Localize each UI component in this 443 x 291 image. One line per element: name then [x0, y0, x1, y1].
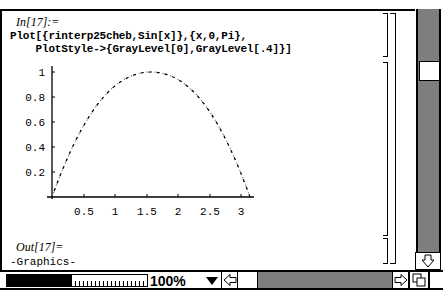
output-label: Out[17]=: [16, 240, 63, 255]
x-tick-0.5: 0.5: [74, 206, 94, 218]
scroll-right-button[interactable]: [392, 272, 409, 288]
output-cell-bracket[interactable]: [383, 238, 388, 264]
series-sin: [52, 72, 250, 197]
magnification-ruler[interactable]: [6, 274, 148, 287]
group-cell-bracket[interactable]: [390, 13, 396, 264]
input-code-line-1[interactable]: Plot[{rinterp25cheb,Sin[x]},{x,0,Pi},: [10, 30, 247, 42]
horizontal-scrollbar[interactable]: [258, 272, 392, 288]
x-tick-2: 2: [175, 206, 182, 218]
horizontal-scroll-thumb[interactable]: [240, 272, 258, 288]
zoom-level[interactable]: 100%: [150, 273, 186, 289]
input-cell-bracket[interactable]: [383, 13, 388, 57]
series-rinterp25cheb: [52, 72, 250, 197]
y-tick-0.4: 0.4: [25, 142, 45, 154]
plot-graphic: 1 0.8 0.6 0.4 0.2 0.5 1 1.5 2 2.5 3: [0, 60, 380, 235]
scroll-left-button[interactable]: [221, 272, 238, 288]
arrow-down-icon: [421, 254, 435, 268]
y-tick-1: 1: [38, 67, 45, 79]
input-code-line-2[interactable]: PlotStyle->{GrayLevel[0],GrayLevel[.4]}]: [10, 43, 292, 55]
x-tick-3: 3: [238, 206, 245, 218]
x-tick-1.5: 1.5: [137, 206, 157, 218]
vertical-scrollbar[interactable]: [416, 9, 441, 272]
input-label: In[17]:=: [16, 15, 59, 30]
x-tick-2.5: 2.5: [200, 206, 220, 218]
y-tick-0.2: 0.2: [25, 167, 45, 179]
arrow-left-icon: [223, 274, 237, 286]
scroll-down-button[interactable]: [415, 252, 441, 270]
arrow-right-icon: [394, 274, 408, 286]
x-tick-1: 1: [112, 206, 119, 218]
resize-box[interactable]: [409, 272, 430, 288]
vertical-scroll-thumb[interactable]: [419, 61, 440, 81]
status-bar: 100%: [0, 270, 443, 290]
triangle-down-icon[interactable]: [206, 277, 218, 285]
notebook-window: In[17]:= Plot[{rinterp25cheb,Sin[x]},{x,…: [0, 0, 443, 291]
graphics-cell-bracket[interactable]: [383, 62, 388, 236]
output-value: -Graphics-: [10, 256, 76, 268]
y-tick-0.8: 0.8: [25, 92, 45, 104]
y-tick-0.6: 0.6: [25, 117, 45, 129]
resize-box-icon: [412, 273, 426, 287]
